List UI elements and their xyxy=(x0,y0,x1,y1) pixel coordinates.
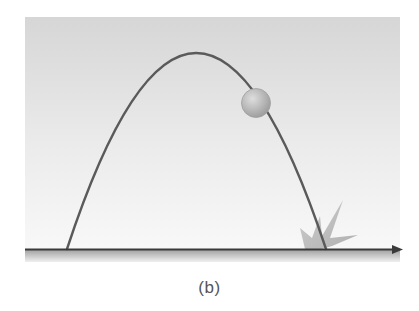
background-panel xyxy=(25,17,400,249)
projectile-diagram xyxy=(0,0,419,311)
ball-icon xyxy=(242,89,271,118)
ground-shading xyxy=(25,249,400,262)
figure-caption: (b) xyxy=(0,278,419,298)
projectile-figure: (b) xyxy=(0,0,419,311)
